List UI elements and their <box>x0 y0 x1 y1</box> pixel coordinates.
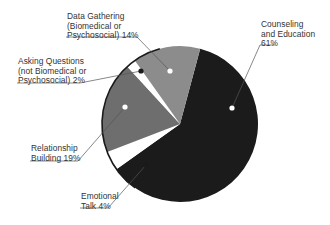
label-asking-questions: Asking Questions (not Biomedical or Psyc… <box>18 57 86 86</box>
slice-marker-dot <box>138 68 143 73</box>
slice-marker-dot <box>122 104 127 109</box>
slice-marker-dot <box>143 162 148 167</box>
label-emotional: Emotional Talk 4% <box>81 192 119 211</box>
slice-marker-dot <box>167 68 172 73</box>
slice-marker-dot <box>229 105 234 110</box>
label-relationship: Relationship Building 19% <box>31 144 81 163</box>
label-counseling: Counseling and Education 61% <box>261 20 315 49</box>
label-data-gathering: Data Gathering (Biomedical or Psychosoci… <box>67 12 139 41</box>
